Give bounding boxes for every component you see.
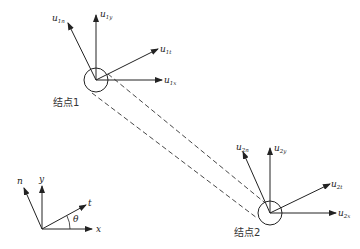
node-1-label: 结点1 [53,96,79,108]
coordinate-frame: x y t n θ [17,174,101,234]
label-u1t: u1t [160,44,172,55]
label-u1y: u1y [100,9,113,21]
label-u2x: u2x [338,208,351,219]
vector-u1n [68,23,96,80]
vector-u2t [270,184,330,213]
vector-u2n [243,152,270,213]
bar-edge-lower [92,93,257,218]
label-u1n: u1n [52,13,65,24]
node-2: u2n u2y u2t u2x 结点2 [234,142,351,238]
angle-arc [67,216,70,229]
label-u2y: u2y [274,143,287,155]
axis-t [42,205,86,229]
label-x: x [96,224,101,234]
label-t: t [88,198,92,208]
label-n: n [17,176,23,186]
label-u2n: u2n [236,142,249,153]
node-1: u1n u1y u1t u1x 结点1 [52,9,177,108]
label-u2t: u2t [331,179,343,190]
label-u1x: u1x [164,75,177,86]
node-2-label: 结点2 [234,226,260,238]
label-theta: θ [73,214,79,224]
truss-element-diagram: u1n u1y u1t u1x 结点1 u2n u2y u2t u2x 结点2 … [0,0,360,249]
vector-u1t [96,49,158,80]
bar-edge-upper [108,74,264,202]
label-y: y [38,174,45,184]
axis-n [24,188,42,229]
